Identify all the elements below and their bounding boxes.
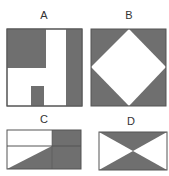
panel-label-b: B [125,9,132,21]
panel-a[interactable]: A [7,9,82,106]
panel-c[interactable]: C [7,113,81,169]
panel-a-top-left-block [7,29,46,68]
panel-b[interactable]: B [91,9,166,106]
panel-a-right-strip [66,29,82,106]
panel-a-bottom-block [31,86,44,106]
panel-c-right-block [52,130,81,169]
panel-d[interactable]: D [99,115,167,170]
panel-label-d: D [127,115,135,127]
figure-canvas: A B C D [0,0,169,176]
panel-label-a: A [40,9,48,21]
panel-label-c: C [40,113,48,125]
